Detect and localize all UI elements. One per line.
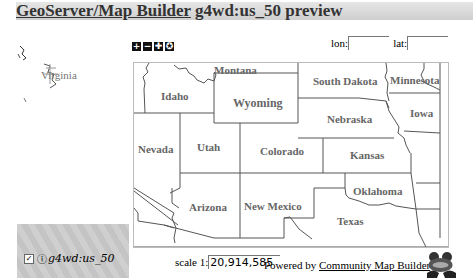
locator-map[interactable]: Virginia — [10, 44, 100, 114]
lon-input[interactable] — [348, 36, 389, 50]
state-label-south-dakota: South Dakota — [313, 75, 378, 87]
lat-input[interactable] — [407, 36, 448, 50]
state-label-kansas: Kansas — [350, 149, 384, 161]
state-label-wyoming: Wyoming — [233, 96, 283, 111]
powered-by-text: Powered by — [264, 259, 319, 271]
scale-label: scale 1: — [175, 256, 208, 268]
state-label-iowa: Iowa — [410, 107, 433, 119]
layer-info-icon[interactable]: ⓘ — [37, 251, 47, 266]
reset-button[interactable]: ✪ — [165, 42, 174, 51]
state-label-oklahoma: Oklahoma — [353, 185, 403, 197]
layer-legend: ✓ ⓘ g4wd:us_50 — [17, 224, 129, 278]
zoom-in-button[interactable]: + — [132, 42, 141, 51]
state-label-idaho: Idaho — [161, 90, 189, 102]
map-pane[interactable]: Montana Idaho Wyoming South Dakota Minne… — [133, 62, 449, 248]
state-label-nebraska: Nebraska — [327, 113, 372, 125]
layer-name: g4wd:us_50 — [48, 252, 114, 265]
state-label-montana: Montana — [214, 64, 257, 76]
lon-label: lon: — [331, 37, 348, 49]
map-toolbar: + − ✚ ✪ — [132, 42, 174, 51]
locator-state-label: Virginia — [41, 69, 77, 81]
state-label-utah: Utah — [197, 141, 220, 153]
state-label-colorado: Colorado — [260, 145, 304, 157]
geoserver-map-builder-link[interactable]: GeoServer/Map Builder — [16, 1, 191, 20]
community-map-builder-link[interactable]: Community Map Builder — [319, 259, 430, 271]
state-label-minnesota: Minnesota — [390, 74, 440, 86]
state-label-nevada: Nevada — [138, 143, 173, 155]
layer-visibility-checkbox[interactable]: ✓ — [24, 254, 34, 264]
legend-layer-row: ✓ ⓘ g4wd:us_50 — [24, 251, 114, 266]
page-header: GeoServer/Map Builder g4wd:us_50 preview — [16, 2, 473, 20]
state-label-arizona: Arizona — [189, 201, 227, 213]
powered-by: Powered by Community Map Builder — [264, 259, 430, 271]
frog-logo-icon — [425, 251, 457, 278]
page-title: g4wd:us_50 preview — [191, 1, 343, 20]
state-label-new-mexico: New Mexico — [244, 200, 302, 212]
state-label-texas: Texas — [337, 215, 364, 227]
coordinates-panel: lon: lat: — [331, 36, 452, 50]
pan-button[interactable]: ✚ — [154, 42, 163, 51]
zoom-out-button[interactable]: − — [143, 42, 152, 51]
lat-label: lat: — [393, 37, 407, 49]
